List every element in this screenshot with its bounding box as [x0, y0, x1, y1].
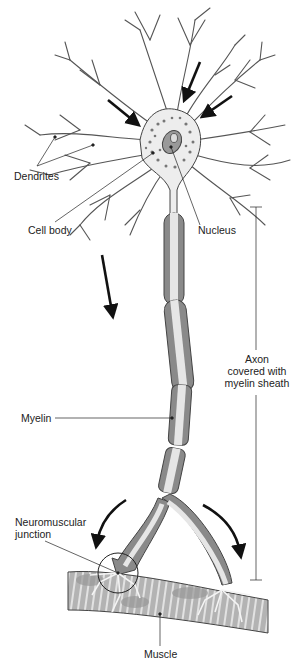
label-neuromuscular-junction: Neuromuscular junction — [15, 516, 86, 540]
neuron-diagram: Dendrites Cell body Nucleus Axon covered… — [0, 0, 301, 667]
label-nucleus: Nucleus — [198, 224, 236, 236]
myelinated-axon — [112, 213, 232, 585]
neuron-illustration — [0, 0, 301, 667]
label-nmj-line1: Neuromuscular — [15, 516, 86, 528]
label-dendrites: Dendrites — [14, 170, 59, 182]
label-nmj-line2: junction — [15, 528, 86, 540]
label-cell-body: Cell body — [28, 224, 72, 236]
label-myelin: Myelin — [21, 412, 51, 424]
label-muscle: Muscle — [144, 648, 177, 660]
label-axon-line3: myelin sheath — [224, 377, 290, 389]
label-axon: Axon covered with myelin sheath — [224, 353, 290, 389]
label-axon-line1: Axon — [224, 353, 290, 365]
cell-body-shape — [140, 109, 201, 215]
label-axon-line2: covered with — [224, 365, 290, 377]
